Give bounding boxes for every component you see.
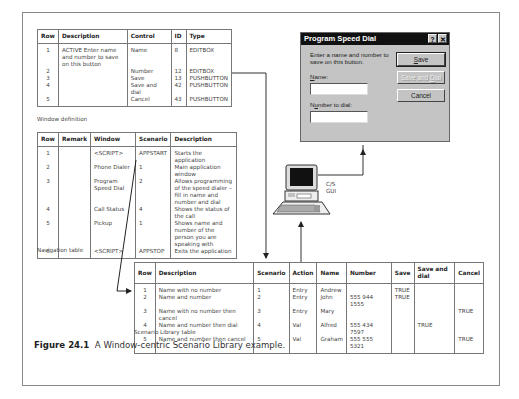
- name-label: Name:: [310, 73, 328, 80]
- save-and-dial-button[interactable]: Save and Dial: [397, 71, 445, 84]
- figure-caption-text: A Window-centric Scenario Library exampl…: [95, 340, 285, 350]
- button-text: ial: [435, 74, 441, 81]
- number-label: Number to dial:: [310, 101, 352, 108]
- close-icon[interactable]: ✕: [438, 34, 447, 43]
- number-field[interactable]: [310, 111, 368, 123]
- gui-label-line: GUI: [326, 188, 336, 195]
- label-text: ame:: [314, 73, 328, 80]
- button-text: Save and: [401, 74, 430, 81]
- label-text: mber to dial:: [318, 101, 352, 108]
- save-button[interactable]: Save: [397, 53, 445, 66]
- figure-caption: Figure 24.1 A Window-centric Scenario Li…: [34, 340, 285, 350]
- cs-gui-label: C/S GUI: [326, 181, 336, 195]
- dialog-title-bar: Program Speed Dial ? ✕: [301, 33, 449, 45]
- name-field[interactable]: [310, 83, 368, 95]
- gui-label-line: C/S: [326, 181, 336, 188]
- button-text: ave: [418, 56, 428, 63]
- help-icon[interactable]: ?: [428, 34, 437, 43]
- dialog-title: Program Speed Dial: [304, 34, 376, 43]
- dialog-prompt: Enter a name and number to save on this …: [310, 51, 390, 65]
- cancel-button[interactable]: Cancel: [397, 89, 445, 102]
- computer-icon: [273, 165, 330, 214]
- figure-number: Figure 24.1: [34, 340, 89, 350]
- program-speed-dial-dialog: Program Speed Dial ? ✕ Enter a name and …: [300, 32, 450, 142]
